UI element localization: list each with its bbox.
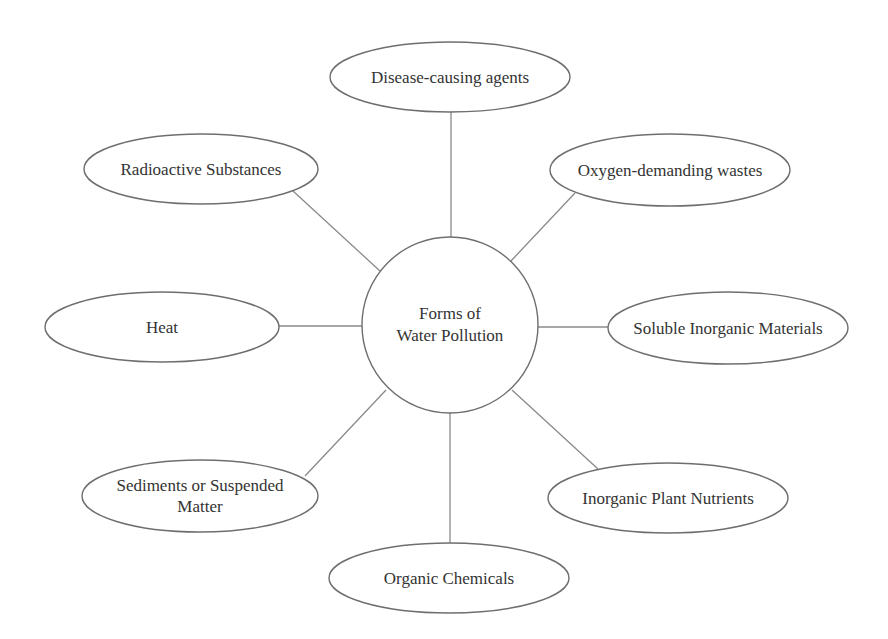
node-label: Inorganic Plant Nutrients xyxy=(582,488,754,509)
node-label: Soluble Inorganic Materials xyxy=(633,318,822,339)
node-label: Radioactive Substances xyxy=(121,159,282,180)
connector-line-sediments xyxy=(305,390,386,476)
center-label-line-1: Forms of xyxy=(397,303,504,325)
connector-line-oxygen xyxy=(510,193,575,262)
center-label-line-2: Water Pollution xyxy=(397,325,504,347)
node-organic-chemicals: Organic Chemicals xyxy=(384,568,514,589)
center-node-label: Forms of Water Pollution xyxy=(397,303,504,347)
node-label: Organic Chemicals xyxy=(384,568,514,589)
node-soluble-inorganic-materials: Soluble Inorganic Materials xyxy=(633,318,822,339)
node-label-line-1: Sediments or Suspended xyxy=(116,475,283,496)
node-label: Heat xyxy=(146,317,178,338)
connector-line-nutrients xyxy=(512,390,598,469)
node-disease-causing-agents: Disease-causing agents xyxy=(371,67,529,88)
node-oxygen-demanding-wastes: Oxygen-demanding wastes xyxy=(578,160,763,181)
connector-line-radioactive xyxy=(293,191,380,271)
node-label-line-2: Matter xyxy=(116,496,283,517)
node-radioactive-substances: Radioactive Substances xyxy=(121,159,282,180)
node-label: Disease-causing agents xyxy=(371,67,529,88)
node-label: Oxygen-demanding wastes xyxy=(578,160,763,181)
node-heat: Heat xyxy=(146,317,178,338)
node-inorganic-plant-nutrients: Inorganic Plant Nutrients xyxy=(582,488,754,509)
node-sediments-or-suspended-matter: Sediments or Suspended Matter xyxy=(116,475,283,517)
